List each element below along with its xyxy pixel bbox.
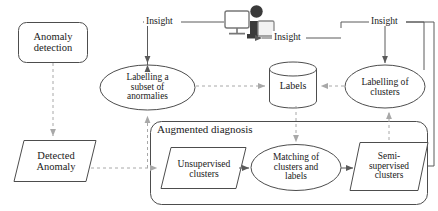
edge-insight-right-left bbox=[341, 22, 369, 28]
node-anomaly-detection bbox=[19, 23, 88, 63]
diagram-canvas: Anomaly detection Detected Anomaly Label… bbox=[0, 0, 438, 211]
node-labels-store bbox=[270, 62, 317, 108]
node-semi-supervised-clusters bbox=[350, 143, 428, 191]
edge-label-insight-left: Insight bbox=[144, 15, 175, 26]
edge-insight-right bbox=[406, 22, 424, 70]
human-analyst-icon bbox=[225, 5, 274, 38]
node-matching-clusters-labels bbox=[251, 145, 341, 191]
node-labelling-of-clusters bbox=[345, 65, 425, 108]
edge-label-insight-right: Insight bbox=[369, 15, 400, 26]
node-detected-anomaly bbox=[14, 141, 96, 182]
node-labelling-subset-anomalies bbox=[100, 65, 195, 110]
edge-label-insight-middle: Insight bbox=[272, 31, 303, 42]
group-title-augmented-diagnosis: Augmented diagnosis bbox=[157, 123, 253, 135]
diagram-vector-layer bbox=[0, 0, 438, 211]
edge-insight-left bbox=[143, 22, 148, 65]
node-unsupervised-clusters bbox=[161, 148, 246, 189]
